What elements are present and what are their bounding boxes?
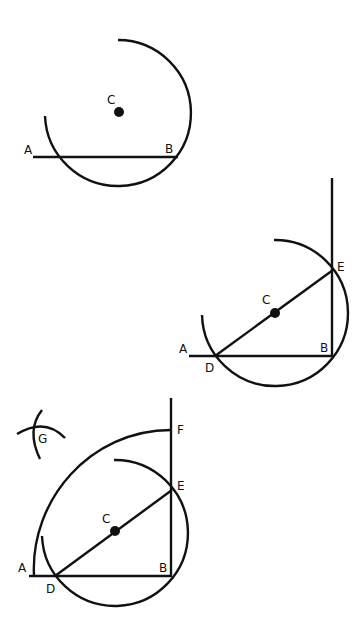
fig3-label-b: B: [159, 561, 167, 575]
fig3-label-a: A: [18, 561, 27, 575]
fig3-point-c: [110, 526, 120, 536]
fig3-label-g: G: [38, 432, 47, 446]
fig3-label-c: C: [102, 512, 110, 526]
fig3-label-e: E: [177, 479, 185, 493]
fig2-label-b: B: [320, 341, 328, 355]
fig1-point-c: [114, 107, 124, 117]
fig2-label-c: C: [262, 293, 270, 307]
fig2-label-d: D: [205, 361, 214, 375]
fig3-large-arc-fa: [34, 430, 171, 576]
fig3-label-f: F: [177, 423, 184, 437]
figure-2: C A B D E: [179, 178, 348, 386]
fig2-point-c: [270, 308, 280, 318]
fig3-label-d: D: [46, 582, 55, 596]
figure-3: G F E C A B D: [17, 398, 188, 606]
fig1-label-a: A: [24, 143, 33, 157]
figure-1: C A B: [24, 40, 191, 186]
fig2-label-a: A: [179, 342, 188, 356]
fig1-label-b: B: [165, 142, 173, 156]
fig1-label-c: C: [107, 93, 115, 107]
fig2-label-e: E: [337, 260, 345, 274]
construction-diagram: C A B C A B D E G F E C A B D: [0, 0, 364, 644]
